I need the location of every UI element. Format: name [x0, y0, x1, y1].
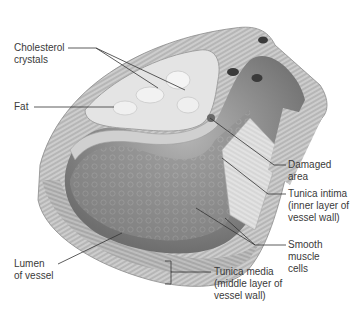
label-smooth-muscle-cells: Smooth muscle cells — [288, 239, 322, 275]
dark-spot — [227, 68, 239, 76]
label-tunica-intima: Tunica intima (inner layer of vessel wal… — [288, 188, 349, 224]
label-damaged-area: Damaged area — [288, 159, 331, 183]
label-fat: Fat — [14, 101, 28, 113]
label-lumen: Lumen of vessel — [14, 258, 53, 282]
dark-spot — [258, 37, 268, 44]
label-tunica-media: Tunica media (middle layer of vessel wal… — [214, 266, 282, 302]
label-cholesterol-crystals: Cholesterol crystals — [14, 42, 65, 66]
dark-spot — [252, 74, 263, 82]
